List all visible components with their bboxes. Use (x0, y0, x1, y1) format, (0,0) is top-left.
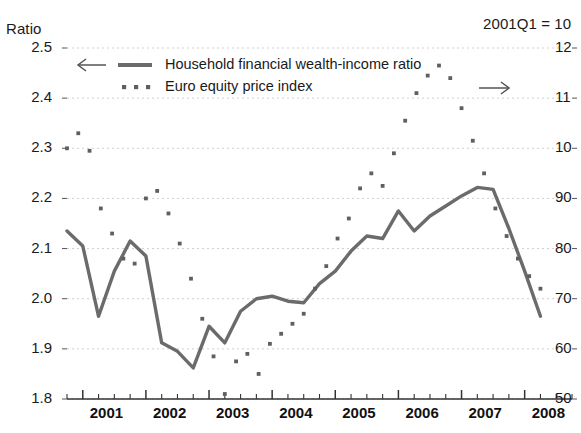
y-axis-left-tick-label: 2.0 (8, 289, 52, 306)
right-arrow-icon (479, 82, 509, 94)
data-dot (347, 217, 351, 221)
data-dot (392, 151, 396, 155)
y-axis-left-tick-label: 2.1 (8, 239, 52, 256)
data-dot (313, 287, 317, 291)
data-dot (144, 197, 148, 201)
data-dot (448, 76, 452, 80)
legend-dot (146, 85, 150, 89)
gridlines (67, 48, 572, 399)
x-axis-tick-label: 2003 (203, 404, 263, 421)
legend-dot (134, 85, 138, 89)
y-axis-right-tick-label: 90 (555, 188, 572, 205)
data-dot (268, 342, 272, 346)
x-axis-tick-label: 2005 (329, 404, 389, 421)
x-axis-tick-label: 2001 (76, 404, 136, 421)
data-dot (65, 146, 69, 150)
data-dot (369, 171, 373, 175)
data-dot (178, 242, 182, 246)
y-axis-right-ticks (572, 48, 577, 399)
legend-dotted-swatch (122, 85, 150, 89)
x-axis-ticks (67, 390, 572, 399)
data-dot (426, 74, 430, 78)
left-arrow-icon (78, 59, 106, 71)
y-axis-right-tick-label: 70 (555, 289, 572, 306)
series-dotted-euro-equity-index (65, 64, 542, 396)
y-axis-left-tick-label: 1.9 (8, 339, 52, 356)
data-dot (212, 354, 216, 358)
data-dot (133, 262, 137, 266)
data-dot (471, 139, 475, 143)
data-dot (403, 119, 407, 123)
data-dot (110, 232, 114, 236)
y-axis-left-tick-label: 2.3 (8, 138, 52, 155)
data-dot (189, 277, 193, 281)
data-dot (99, 207, 103, 211)
y-axis-left-tick-label: 2.2 (8, 188, 52, 205)
data-dot (493, 207, 497, 211)
data-dot (482, 171, 486, 175)
data-dot (324, 264, 328, 268)
data-dot (223, 392, 227, 396)
y-axis-left-tick-label: 2.4 (8, 88, 52, 105)
x-axis-tick-label: 2006 (392, 404, 452, 421)
series-line-household-ratio (67, 187, 540, 368)
data-dot (516, 257, 520, 261)
data-dot (155, 189, 159, 193)
data-dot (539, 287, 543, 291)
data-dot (234, 359, 238, 363)
legend-label-household-ratio: Household financial wealth-income ratio (165, 56, 421, 72)
y-axis-right-tick-label: 11 (555, 88, 571, 105)
data-dot (527, 274, 531, 278)
chart-figure: Ratio 2001Q1 = 10 Household financial we… (0, 0, 581, 433)
x-axis-tick-label: 2008 (518, 404, 578, 421)
data-dot (291, 322, 295, 326)
data-dot (381, 184, 385, 188)
data-dot (336, 237, 340, 241)
x-axis-tick-label: 2002 (140, 404, 200, 421)
data-dot (437, 64, 441, 68)
data-dot (460, 106, 464, 110)
data-dot (200, 317, 204, 321)
y-axis-right-tick-label: 10 (555, 138, 572, 155)
legend-dot (122, 85, 126, 89)
y-axis-right-tick-label: 80 (555, 239, 572, 256)
x-axis-tick-label: 2007 (455, 404, 515, 421)
data-dot (415, 91, 419, 95)
y-axis-left-tick-label: 1.8 (8, 389, 52, 406)
data-dot (121, 257, 125, 261)
data-dot (167, 212, 171, 216)
data-dot (245, 352, 249, 356)
y-axis-left-ticks (62, 48, 67, 399)
data-dot (279, 332, 283, 336)
data-dot (88, 149, 92, 153)
y-axis-right-tick-label: 12 (555, 38, 572, 55)
x-axis-tick-label: 2004 (266, 404, 326, 421)
data-dot (302, 312, 306, 316)
y-axis-left-tick-label: 2.5 (8, 38, 52, 55)
data-dot (358, 187, 362, 191)
data-dot (76, 131, 80, 135)
y-axis-right-tick-label: 60 (555, 339, 572, 356)
data-dot (257, 372, 261, 376)
legend-label-euro-equity-index: Euro equity price index (165, 78, 313, 94)
data-dot (505, 234, 509, 238)
